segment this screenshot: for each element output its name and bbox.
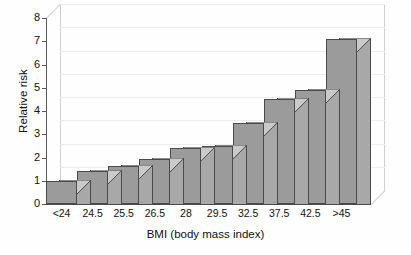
y-axis-title: Relative risk — [17, 36, 29, 166]
bar-column — [46, 181, 77, 218]
y-tick-label: 3 — [26, 128, 40, 139]
plot-area: 012345678 — [46, 18, 386, 204]
y-tick-label: 5 — [26, 82, 40, 93]
y-tick-label: 0 — [26, 198, 40, 209]
wall-connector-bottom — [371, 190, 386, 205]
chart-figure: Relative risk 012345678 <2424.525.526.52… — [0, 0, 411, 255]
y-tick-label: 4 — [26, 105, 40, 116]
bar-front-face — [46, 181, 77, 204]
gridline — [60, 4, 385, 5]
wall-connector-top — [46, 4, 61, 19]
y-tick-label: 6 — [26, 59, 40, 70]
bar-side-face — [357, 39, 371, 204]
bar-side-face — [264, 123, 278, 204]
bar-side-face — [295, 99, 309, 204]
y-tick-label: 7 — [26, 35, 40, 46]
y-tick-label: 1 — [26, 175, 40, 186]
x-axis-title: BMI (body mass index) — [0, 228, 411, 240]
y-tick-label: 8 — [26, 12, 40, 23]
bar-series — [46, 18, 371, 204]
y-tick-label: 2 — [26, 152, 40, 163]
bar-side-face — [326, 90, 340, 204]
